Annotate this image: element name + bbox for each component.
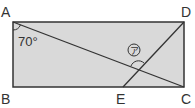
- point-c-label: C: [181, 91, 191, 107]
- point-e-label: E: [116, 91, 125, 107]
- point-b-label: B: [1, 91, 10, 107]
- point-d-label: D: [181, 4, 191, 20]
- point-a-label: A: [1, 4, 11, 20]
- angle-marker-label: ア: [130, 46, 139, 56]
- geometry-diagram: ア 70° A D B E C: [0, 0, 195, 108]
- angle-70-label: 70°: [18, 34, 38, 49]
